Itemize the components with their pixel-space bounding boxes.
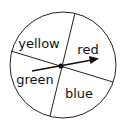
- spinner-diagram: yellow red green blue: [0, 0, 122, 123]
- section-label-green: green: [16, 72, 54, 87]
- section-label-blue: blue: [65, 86, 93, 101]
- section-label-yellow: yellow: [18, 36, 60, 51]
- section-label-red: red: [77, 42, 98, 57]
- spinner-center-dot: [58, 63, 63, 68]
